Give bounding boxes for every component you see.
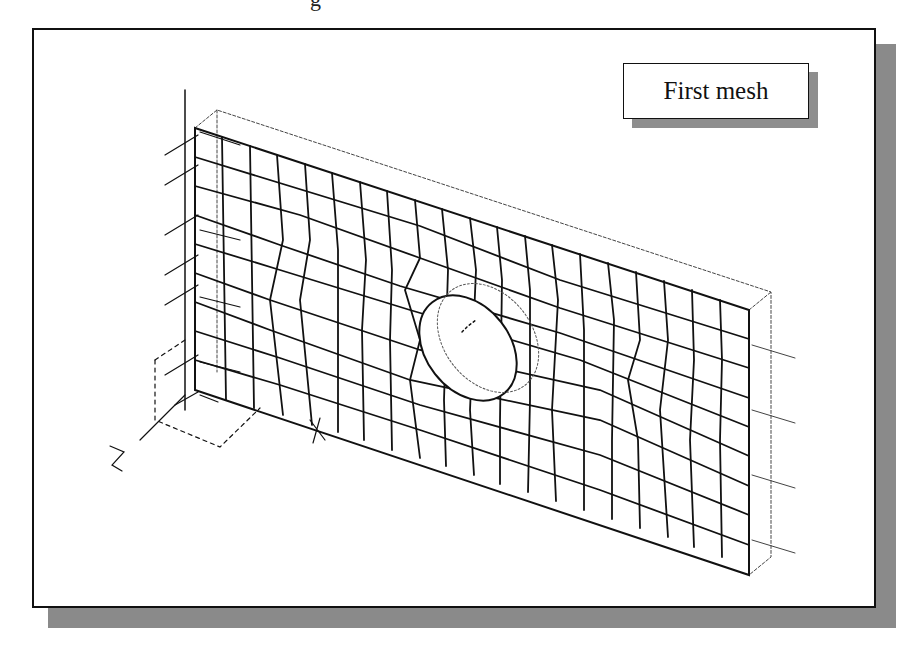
hole xyxy=(399,264,559,420)
coordinate-triad xyxy=(110,340,325,471)
right-loads xyxy=(752,345,795,553)
z-axis-glyph xyxy=(110,446,124,471)
mesh-label: First mesh xyxy=(623,63,809,119)
